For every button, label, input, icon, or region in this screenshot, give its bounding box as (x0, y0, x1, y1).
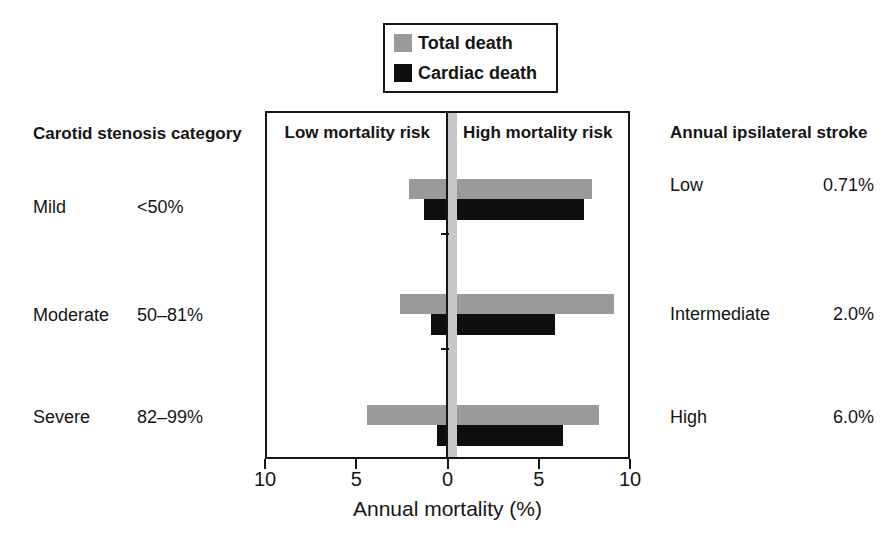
stroke-value-intermediate: 2.0% (833, 304, 874, 325)
stenosis-row-moderate: Moderate 50–81% (33, 305, 243, 327)
stenosis-label-moderate: Moderate (33, 305, 109, 326)
stenosis-row-mild: Mild <50% (33, 197, 243, 219)
category-axis-tick (441, 233, 449, 235)
stenosis-row-severe: Severe 82–99% (33, 407, 243, 429)
x-axis-title: Annual mortality (%) (265, 497, 630, 521)
total-death-bar-moderate (400, 294, 614, 314)
stenosis-range-mild: <50% (137, 197, 184, 218)
figure-carotid-stenosis-mortality: Total death Cardiac death Carotid stenos… (0, 0, 894, 552)
total-death-bar-severe (367, 405, 599, 425)
black-square-swatch-icon (394, 64, 412, 82)
right-panel-header: Annual ipsilateral stroke (670, 123, 867, 143)
stroke-label-intermediate: Intermediate (670, 304, 770, 325)
stroke-label-high: High (670, 407, 707, 428)
x-axis-tick-label: 10 (608, 468, 652, 491)
stroke-label-low: Low (670, 175, 703, 196)
stroke-row-high: High 6.0% (670, 407, 874, 429)
legend-item-total-death: Total death (394, 33, 556, 54)
stroke-row-intermediate: Intermediate 2.0% (670, 304, 874, 326)
stroke-row-low: Low 0.71% (670, 175, 874, 197)
gray-square-swatch-icon (394, 34, 412, 52)
stenosis-label-severe: Severe (33, 407, 90, 428)
legend-label-cardiac-death: Cardiac death (418, 63, 537, 84)
left-panel-header: Carotid stenosis category (33, 124, 242, 144)
stroke-value-low: 0.71% (823, 175, 874, 196)
category-axis-tick (441, 348, 449, 350)
x-axis-tick-label: 0 (426, 468, 470, 491)
legend-label-total-death: Total death (418, 33, 513, 54)
x-axis-tick-label: 5 (334, 468, 378, 491)
stenosis-label-mild: Mild (33, 197, 66, 218)
x-axis-tick-label: 10 (243, 468, 287, 491)
legend-item-cardiac-death: Cardiac death (394, 63, 556, 84)
total-death-bar-mild (409, 179, 592, 199)
plot-area: Low mortality risk High mortality risk (265, 111, 630, 459)
zero-reference-band (448, 113, 457, 457)
legend: Total death Cardiac death (383, 23, 558, 93)
x-axis-tick-label: 5 (517, 468, 561, 491)
stenosis-range-moderate: 50–81% (137, 305, 203, 326)
stroke-value-high: 6.0% (833, 407, 874, 428)
stenosis-range-severe: 82–99% (137, 407, 203, 428)
